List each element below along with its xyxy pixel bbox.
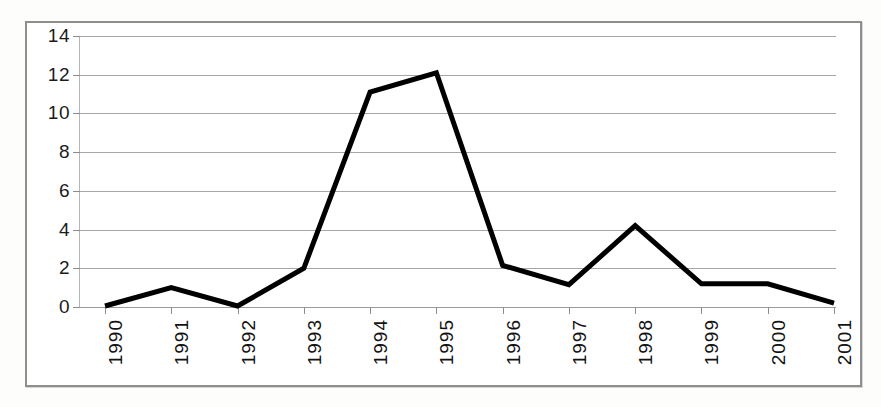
- x-axis-label-1992: 1992: [238, 319, 260, 365]
- y-axis-label-0: 0: [59, 296, 70, 318]
- x-axis-label-1998: 1998: [635, 319, 657, 365]
- x-tick-mark-2000: [768, 307, 769, 314]
- y-axis-label-12: 12: [48, 64, 70, 86]
- x-axis-label-1991: 1991: [171, 319, 193, 365]
- x-axis-label-2001: 2001: [834, 319, 856, 365]
- chart-figure: 02468101214 1990199119921993199419951996…: [0, 0, 881, 407]
- x-tick-mark-2001: [834, 307, 835, 314]
- x-axis-label-1999: 1999: [701, 319, 723, 365]
- x-tick-mark-1991: [171, 307, 172, 314]
- y-axis-label-2: 2: [59, 257, 70, 279]
- x-axis-label-1993: 1993: [304, 319, 326, 365]
- x-tick-mark-1994: [370, 307, 371, 314]
- x-axis-label-1996: 1996: [503, 319, 525, 365]
- x-tick-mark-1999: [701, 307, 702, 314]
- x-tick-mark-1996: [503, 307, 504, 314]
- x-tick-mark-1998: [635, 307, 636, 314]
- y-axis-label-6: 6: [59, 180, 70, 202]
- x-tick-mark-1997: [569, 307, 570, 314]
- x-axis-label-2000: 2000: [768, 319, 790, 365]
- chart-frame: 02468101214 1990199119921993199419951996…: [25, 21, 862, 387]
- x-axis-label-1997: 1997: [569, 319, 591, 365]
- x-axis-label-1995: 1995: [436, 319, 458, 365]
- y-tick-mark-0: [73, 307, 80, 308]
- y-axis-label-10: 10: [48, 102, 70, 124]
- gridline-0: [79, 307, 836, 308]
- plot-area: 02468101214 1990199119921993199419951996…: [79, 36, 836, 307]
- x-axis-label-1994: 1994: [370, 319, 392, 365]
- y-axis-label-8: 8: [59, 141, 70, 163]
- y-axis-label-4: 4: [59, 219, 70, 241]
- x-tick-mark-1993: [304, 307, 305, 314]
- y-axis-label-14: 14: [48, 25, 70, 47]
- series-line-chart: [79, 36, 836, 307]
- x-tick-mark-1995: [436, 307, 437, 314]
- x-axis-label-1990: 1990: [105, 319, 127, 365]
- data-series-line: [105, 73, 834, 306]
